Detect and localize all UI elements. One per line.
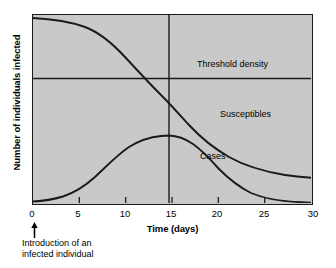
- x-tick-label-10: 10: [113, 208, 137, 220]
- susceptibles-curve-path: [33, 18, 311, 178]
- cases-curve-path: [33, 136, 311, 203]
- x-axis-title: Time (days): [32, 223, 313, 234]
- x-tick-label-15: 15: [159, 208, 183, 220]
- x-tick-label-5: 5: [66, 208, 90, 220]
- x-tick-label-30: 30: [301, 208, 325, 220]
- plot-area: Threshold density Susceptibles Cases: [32, 14, 313, 205]
- susceptibles-curve: [33, 18, 169, 81]
- x-tick-label-0: 0: [20, 208, 44, 220]
- x-tick-marks: [79, 197, 264, 203]
- susceptibles-label: Susceptibles: [220, 109, 271, 119]
- x-tick-label-25: 25: [252, 208, 276, 220]
- threshold-density-label: Threshold density: [197, 59, 268, 69]
- introduction-arrow-icon: [30, 222, 39, 238]
- y-axis-title: Number of individuals infected: [10, 0, 24, 205]
- x-tick-label-20: 20: [205, 208, 229, 220]
- introduction-annotation-caption: Introduction of an infected individual: [22, 238, 94, 260]
- cases-label: Cases: [200, 151, 226, 161]
- chart-figure: Number of individuals infected Threshold…: [0, 0, 336, 268]
